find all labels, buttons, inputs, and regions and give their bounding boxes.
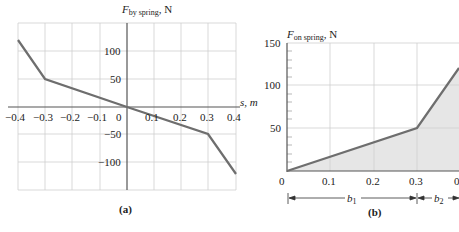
chart-a-ytick: −100 (98, 156, 121, 168)
chart-a-xtick: 0.4 (227, 111, 241, 123)
chart-a-ytick: 50 (110, 73, 122, 85)
b1-label: b1 (347, 192, 357, 206)
chart-a-xtick: −0.2 (60, 111, 80, 123)
b2-label: b2 (434, 192, 444, 206)
chart-b: Fon spring, N 150 100 50 0 0.1 0.2 0.3 0… (264, 28, 459, 219)
chart-a-ytick: 100 (104, 45, 121, 57)
chart-b-xtick: 0.3 (409, 175, 423, 187)
chart-a-xtick: 0.2 (173, 111, 187, 123)
chart-a-xtick: 0 (116, 111, 122, 123)
chart-a-ytick: −50 (104, 128, 122, 140)
chart-b-xtick: 0.2 (366, 175, 380, 187)
figure: Fby spring, N 100 50 −50 −100 −0.4 −0.3 … (0, 0, 459, 232)
chart-b-ytick: 50 (270, 122, 282, 134)
chart-a: Fby spring, N 100 50 −50 −100 −0.4 −0.3 … (5, 3, 258, 216)
chart-b-ytick: 150 (264, 37, 281, 49)
chart-b-xtick: 0 (454, 175, 459, 187)
chart-b-xtick: 0.1 (322, 175, 336, 187)
chart-b-ytick: 100 (264, 79, 281, 91)
chart-a-xtick: −0.1 (87, 111, 107, 123)
chart-a-xtick: 0.3 (200, 111, 214, 123)
chart-a-ylabel: Fby spring, N (121, 3, 172, 17)
chart-b-minor-ticks (287, 51, 292, 162)
chart-b-xtick: 0 (279, 175, 285, 187)
caption-b: (b) (368, 206, 382, 219)
caption-a: (a) (119, 203, 132, 216)
chart-b-ylabel: Fon spring, N (286, 28, 337, 42)
chart-a-xlabel: s, m (240, 96, 258, 108)
chart-a-xtick: −0.3 (33, 111, 53, 123)
chart-b-area (287, 68, 459, 171)
chart-a-xtick: −0.4 (5, 111, 25, 123)
chart-a-xtick: 0.1 (145, 111, 159, 123)
